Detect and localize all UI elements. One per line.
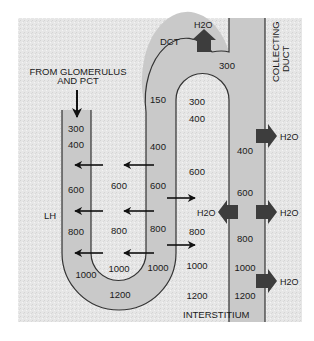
osmolarity-value: 600 bbox=[68, 184, 84, 195]
osmolarity-value: 300 bbox=[68, 123, 84, 134]
osmolarity-value: 1200 bbox=[109, 289, 130, 300]
osmolarity-value: 800 bbox=[189, 226, 205, 237]
osmolarity-value: 1000 bbox=[147, 262, 168, 273]
osmolarity-value: 1000 bbox=[186, 260, 207, 271]
osmolarity-value: 300 bbox=[219, 60, 235, 71]
osmolarity-value: 300 bbox=[189, 96, 205, 107]
dct-label: DCT bbox=[160, 36, 180, 47]
osmolarity-value: 800 bbox=[237, 233, 253, 244]
water-label: H2O bbox=[280, 277, 299, 287]
osmolarity-value: 800 bbox=[68, 226, 84, 237]
osmolarity-value: 600 bbox=[111, 180, 127, 191]
loh-label: LH bbox=[44, 210, 56, 221]
osmolarity-value: 800 bbox=[150, 223, 166, 234]
osmolarity-value: 600 bbox=[150, 180, 166, 191]
water-label: H2O bbox=[197, 208, 216, 218]
osmolarity-value: 1000 bbox=[234, 262, 255, 273]
osmolarity-value: 150 bbox=[150, 94, 166, 105]
osmolarity-value: 1200 bbox=[234, 290, 255, 301]
osmolarity-value: 600 bbox=[237, 187, 253, 198]
osmolarity-value: 400 bbox=[237, 145, 253, 156]
osmolarity-value: 600 bbox=[189, 166, 205, 177]
interstitium-label: INTERSTITIUM bbox=[183, 309, 250, 320]
osmolarity-value: 800 bbox=[111, 225, 127, 236]
water-label: H2O bbox=[280, 208, 299, 218]
water-label: H2O bbox=[280, 132, 299, 142]
collecting-duct-label-2: DUCT bbox=[280, 45, 291, 72]
osmolarity-value: 1000 bbox=[75, 269, 96, 280]
water-label: H2O bbox=[194, 20, 213, 30]
osmolarity-value: 1000 bbox=[108, 263, 129, 274]
osmolarity-value: 400 bbox=[68, 139, 84, 150]
osmolarity-value: 400 bbox=[150, 141, 166, 152]
nephron-diagram: FROM GLOMERULUS AND PCT LH DCT INTERSTIT… bbox=[0, 0, 314, 341]
osmolarity-value: 400 bbox=[189, 113, 205, 124]
source-label-2: AND PCT bbox=[57, 75, 99, 86]
osmolarity-value: 1200 bbox=[186, 290, 207, 301]
